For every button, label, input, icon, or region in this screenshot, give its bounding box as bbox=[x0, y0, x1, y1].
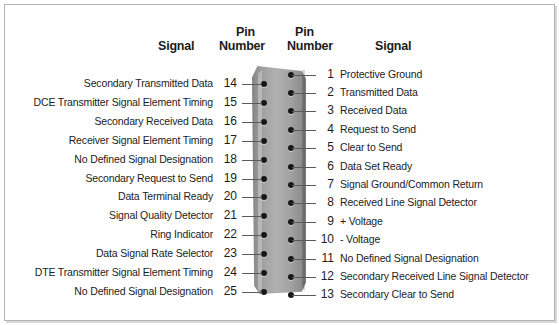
leader-line-right bbox=[292, 148, 316, 149]
header-right-signal: Signal bbox=[375, 39, 411, 53]
leader-line-left bbox=[242, 292, 262, 293]
signal-label-left: Data Signal Rate Selector bbox=[96, 247, 213, 259]
header-left-pin: Pin bbox=[236, 25, 255, 39]
pin-number-right: 6 bbox=[318, 159, 334, 173]
pin-number-right: 5 bbox=[318, 140, 334, 154]
signal-label-right: Received Data bbox=[340, 104, 407, 116]
db25-connector bbox=[252, 66, 306, 294]
pin-number-right: 9 bbox=[318, 214, 334, 228]
header-right-pin-number: Number bbox=[287, 39, 333, 53]
pin-number-left: 25 bbox=[217, 284, 237, 298]
figure-border-shadow-right bbox=[555, 6, 557, 323]
pin-number-left: 23 bbox=[217, 246, 237, 260]
signal-label-left: No Defined Signal Designation bbox=[74, 285, 213, 297]
pin-number-left: 19 bbox=[217, 171, 237, 185]
leader-line-left bbox=[242, 254, 262, 255]
leader-line-left bbox=[242, 235, 262, 236]
pin-number-right: 1 bbox=[318, 67, 334, 81]
signal-label-right: Secondary Received Line Signal Detector bbox=[340, 270, 529, 282]
pin-number-left: 21 bbox=[217, 208, 237, 222]
leader-line-right bbox=[292, 185, 316, 186]
leader-line-left bbox=[242, 122, 262, 123]
leader-line-right bbox=[292, 277, 316, 278]
pin-number-right: 3 bbox=[318, 103, 334, 117]
pin-number-left: 24 bbox=[217, 265, 237, 279]
pin-number-left: 15 bbox=[217, 95, 237, 109]
leader-line-left bbox=[242, 103, 262, 104]
signal-label-left: Ring Indicator bbox=[150, 228, 213, 240]
signal-label-right: Protective Ground bbox=[340, 68, 422, 80]
pin-number-left: 16 bbox=[217, 114, 237, 128]
signal-label-right: + Voltage bbox=[340, 215, 383, 227]
signal-label-right: Clear to Send bbox=[340, 141, 402, 153]
leader-line-right bbox=[292, 240, 316, 241]
signal-label-right: Data Set Ready bbox=[340, 160, 412, 172]
signal-label-right: Secondary Clear to Send bbox=[340, 288, 454, 300]
pin-number-right: 7 bbox=[318, 177, 334, 191]
leader-line-right bbox=[292, 203, 316, 204]
leader-line-right bbox=[292, 130, 316, 131]
signal-label-right: No Defined Signal Designation bbox=[340, 252, 479, 264]
pin-number-right: 4 bbox=[318, 122, 334, 136]
pin-number-right: 10 bbox=[318, 232, 334, 246]
pin-number-right: 8 bbox=[318, 195, 334, 209]
signal-label-left: Secondary Received Data bbox=[94, 115, 213, 127]
leader-line-right bbox=[292, 222, 316, 223]
leader-line-right bbox=[292, 111, 316, 112]
pin-number-left: 22 bbox=[217, 227, 237, 241]
leader-line-right bbox=[292, 167, 316, 168]
pin-number-left: 18 bbox=[217, 152, 237, 166]
header-left-pin-number: Number bbox=[219, 39, 265, 53]
signal-label-left: Secondary Transmitted Data bbox=[84, 77, 213, 89]
leader-line-right bbox=[292, 295, 316, 296]
leader-line-left bbox=[242, 84, 262, 85]
db25-pinout-figure: Signal Pin Number Pin Number Signal Seco… bbox=[0, 0, 559, 325]
signal-label-right: Transmitted Data bbox=[340, 86, 418, 98]
signal-label-left: DTE Transmitter Signal Element Timing bbox=[35, 266, 213, 278]
pin-number-left: 14 bbox=[217, 76, 237, 90]
leader-line-left bbox=[242, 179, 262, 180]
signal-label-left: Signal Quality Detector bbox=[109, 209, 213, 221]
signal-label-right: - Voltage bbox=[340, 233, 380, 245]
pin-number-left: 17 bbox=[217, 133, 237, 147]
header-right-pin: Pin bbox=[295, 25, 314, 39]
signal-label-left: No Defined Signal Designation bbox=[74, 153, 213, 165]
signal-label-right: Signal Ground/Common Return bbox=[340, 178, 483, 190]
signal-label-left: Secondary Request to Send bbox=[85, 172, 213, 184]
pin-number-right: 13 bbox=[318, 287, 334, 301]
pin-number-right: 2 bbox=[318, 85, 334, 99]
leader-line-right bbox=[292, 93, 316, 94]
leader-line-left bbox=[242, 216, 262, 217]
leader-line-left bbox=[242, 273, 262, 274]
leader-line-left bbox=[242, 141, 262, 142]
pin-number-right: 11 bbox=[318, 251, 334, 265]
signal-label-right: Received Line Signal Detector bbox=[340, 196, 477, 208]
leader-line-left bbox=[242, 160, 262, 161]
signal-label-left: DCE Transmitter Signal Element Timing bbox=[34, 96, 213, 108]
pin-number-right: 12 bbox=[318, 269, 334, 283]
leader-line-right bbox=[292, 75, 316, 76]
leader-line-left bbox=[242, 197, 262, 198]
connector-shadow-edge bbox=[302, 70, 305, 290]
pin-number-left: 20 bbox=[217, 189, 237, 203]
signal-label-left: Receiver Signal Element Timing bbox=[69, 134, 213, 146]
signal-label-right: Request to Send bbox=[340, 123, 416, 135]
signal-label-left: Data Terminal Ready bbox=[118, 190, 213, 202]
leader-line-right bbox=[292, 259, 316, 260]
header-left-signal: Signal bbox=[158, 39, 194, 53]
figure-border-shadow-bottom bbox=[6, 321, 557, 323]
